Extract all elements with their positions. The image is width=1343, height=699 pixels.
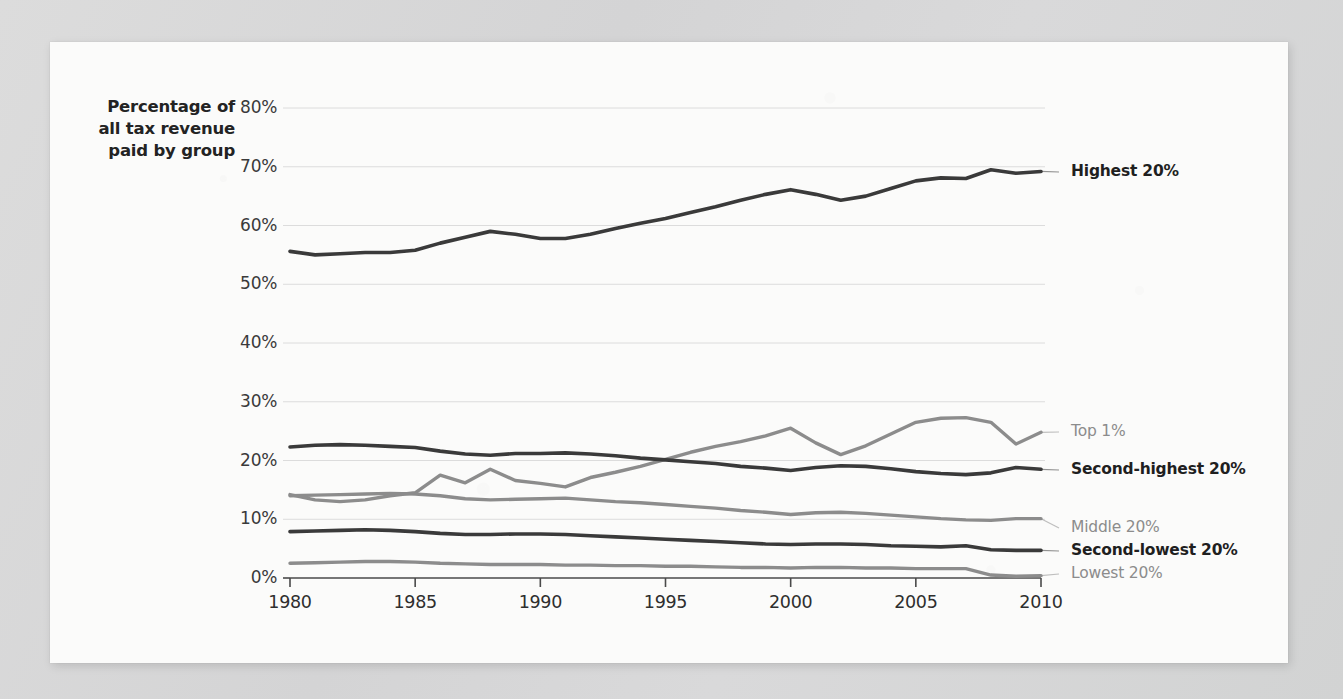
y-tick-label: 50% — [221, 273, 277, 293]
y-tick-label: 0% — [221, 567, 277, 587]
x-tick-label: 1985 — [370, 592, 460, 612]
x-tick-label: 1980 — [245, 592, 335, 612]
x-tick-label: 2005 — [871, 592, 961, 612]
legend-leader-line — [1041, 519, 1059, 528]
x-tick-label: 2000 — [746, 592, 836, 612]
legend-leader-line — [1041, 469, 1059, 470]
y-tick-label: 70% — [221, 156, 277, 176]
series-label-highest-20: Highest 20% — [1071, 162, 1179, 180]
y-tick-label: 60% — [221, 215, 277, 235]
series-lines — [290, 170, 1041, 577]
y-tick-label: 10% — [221, 508, 277, 528]
series-line-middle-20 — [290, 493, 1041, 520]
x-tick-label: 1990 — [495, 592, 585, 612]
series-label-top-1: Top 1% — [1071, 422, 1125, 440]
series-label-second-highest-20: Second-highest 20% — [1071, 460, 1246, 478]
x-tick-label: 1995 — [621, 592, 711, 612]
series-line-second-lowest-20 — [290, 530, 1041, 551]
y-tick-label: 20% — [221, 450, 277, 470]
series-line-highest-20 — [290, 170, 1041, 255]
legend-leader-line — [1041, 550, 1059, 551]
x-tick-label: 2010 — [996, 592, 1086, 612]
series-line-lowest-20 — [290, 562, 1041, 577]
legend-leader-lines — [1041, 171, 1059, 575]
series-label-lowest-20: Lowest 20% — [1071, 564, 1163, 582]
legend-leader-line — [1041, 574, 1059, 576]
y-tick-label: 30% — [221, 391, 277, 411]
y-tick-label: 40% — [221, 332, 277, 352]
line-chart: Percentage of all tax revenue paid by gr… — [0, 0, 1343, 699]
legend-leader-line — [1041, 171, 1059, 172]
y-tick-label: 80% — [221, 97, 277, 117]
series-label-second-lowest-20: Second-lowest 20% — [1071, 541, 1238, 559]
series-label-middle-20: Middle 20% — [1071, 518, 1160, 536]
series-line-second-highest-20 — [290, 445, 1041, 475]
